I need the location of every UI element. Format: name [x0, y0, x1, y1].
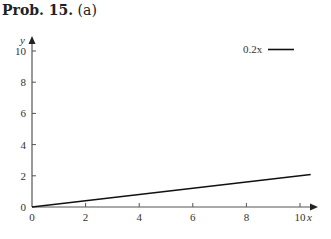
series-line-0.2x: [32, 175, 311, 207]
x-tick-label: 2: [83, 211, 89, 223]
y-tick-label: 0: [21, 201, 27, 213]
x-axis-arrow-icon: [310, 204, 318, 211]
x-tick-label: 4: [136, 211, 142, 223]
y-tick-label: 4: [21, 139, 27, 151]
y-ticks: 0246810: [15, 45, 36, 213]
legend-label: 0.2x: [243, 43, 263, 55]
x-ticks: 0246810: [29, 203, 306, 223]
x-axis-label: x: [306, 211, 312, 223]
x-tick-label: 6: [190, 211, 196, 223]
x-tick-label: 8: [244, 211, 250, 223]
y-tick-label: 2: [21, 170, 27, 182]
y-axis-label: y: [19, 34, 25, 46]
y-tick-label: 10: [15, 45, 27, 57]
y-axis-arrow-icon: [29, 36, 36, 44]
y-tick-label: 8: [21, 76, 27, 88]
legend: 0.2x: [243, 43, 294, 55]
y-tick-label: 6: [21, 107, 27, 119]
x-tick-label: 10: [295, 211, 307, 223]
x-tick-label: 0: [29, 211, 35, 223]
chart: 0246810 0246810 x y 0.2x: [0, 0, 331, 239]
axes: [29, 36, 319, 211]
